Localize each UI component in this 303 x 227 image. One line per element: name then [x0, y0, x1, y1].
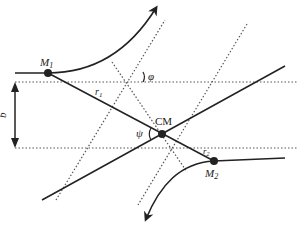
trajectory-m1: [15, 8, 156, 73]
phi-angle-arc: [143, 72, 144, 82]
mass-m1-dot: [44, 69, 52, 77]
label-m2: M2: [204, 167, 218, 181]
b-arrow-up-icon: [11, 82, 19, 92]
label-cm: CM: [155, 115, 172, 127]
psi-angle-arc: [149, 128, 151, 140]
label-psi: ψ: [136, 127, 143, 139]
mass-m2-dot: [210, 157, 218, 165]
label-b: b: [0, 112, 8, 118]
trajectory-m2: [146, 158, 285, 219]
label-m1: M1: [39, 56, 53, 70]
outgoing-asymptote-left-dotted: [56, 20, 165, 200]
label-phi: φ: [148, 70, 154, 82]
cm-dot: [158, 130, 166, 138]
label-r1: r1: [95, 86, 102, 99]
b-arrow-down-icon: [11, 138, 19, 148]
scattering-diagram: M1 M2 r1 r2 CM φ ψ b: [0, 0, 303, 227]
